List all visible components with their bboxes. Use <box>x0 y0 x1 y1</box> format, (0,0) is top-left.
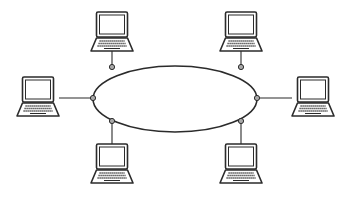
laptop-top-right <box>220 12 262 51</box>
laptop-left <box>17 77 59 116</box>
laptop-bottom-right <box>220 144 262 183</box>
laptop-top-left-ring-node <box>109 64 114 69</box>
laptop-left-ring-node <box>90 95 95 100</box>
laptop-right <box>292 77 334 116</box>
laptop-right-ring-node <box>254 95 259 100</box>
laptop-top-right-ring-node <box>238 64 243 69</box>
ring-nodes <box>90 64 259 123</box>
laptop-top-left <box>91 12 133 51</box>
diagram-canvas <box>0 0 350 198</box>
laptop-bottom-left <box>91 144 133 183</box>
laptop-bottom-left-ring-node <box>109 118 114 123</box>
network-ring <box>93 66 257 132</box>
ring-network-diagram <box>0 0 350 198</box>
laptop-bottom-right-ring-node <box>238 118 243 123</box>
